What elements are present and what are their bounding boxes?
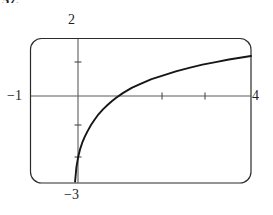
axis-label-left: −1 bbox=[7, 89, 22, 103]
figure-container: 57. 2 −1 4 −3 bbox=[0, 0, 273, 215]
graph-plot bbox=[0, 0, 273, 215]
viewing-window-frame bbox=[31, 39, 252, 184]
axis-label-top: 2 bbox=[68, 13, 75, 27]
axis-label-right: 4 bbox=[252, 89, 259, 103]
axis-label-bottom: −3 bbox=[64, 188, 79, 202]
function-curve bbox=[75, 56, 251, 182]
